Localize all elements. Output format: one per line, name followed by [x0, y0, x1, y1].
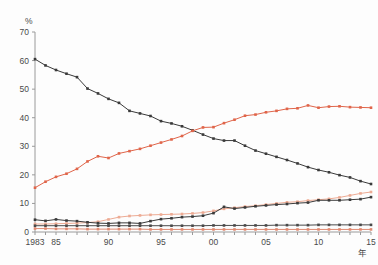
data-point-marker: [170, 138, 173, 141]
data-point-marker: [191, 130, 194, 133]
data-point-marker: [139, 224, 142, 227]
data-point-marker: [202, 228, 205, 231]
data-point-marker: [254, 224, 257, 227]
data-point-marker: [349, 224, 352, 227]
series-series-3-rising-salmon: [34, 191, 373, 226]
data-point-marker: [223, 139, 226, 142]
data-point-marker: [317, 224, 320, 227]
data-point-marker: [202, 126, 205, 129]
data-point-marker: [55, 224, 58, 227]
data-point-marker: [223, 122, 226, 125]
data-point-marker: [296, 224, 299, 227]
data-point-marker: [202, 133, 205, 136]
data-point-marker: [65, 224, 68, 227]
data-point-marker: [170, 122, 173, 125]
data-point-marker: [349, 194, 352, 197]
data-point-marker: [44, 227, 47, 230]
data-point-marker: [244, 206, 247, 209]
data-point-marker: [254, 228, 257, 231]
data-point-marker: [265, 224, 268, 227]
data-point-marker: [34, 224, 37, 227]
data-point-marker: [128, 228, 131, 231]
data-point-marker: [370, 224, 373, 227]
data-point-marker: [139, 112, 142, 115]
data-point-marker: [76, 228, 79, 231]
data-point-marker: [139, 222, 142, 225]
data-point-marker: [212, 126, 215, 129]
data-point-marker: [265, 228, 268, 231]
data-point-marker: [317, 228, 320, 231]
data-point-marker: [370, 183, 373, 186]
data-point-marker: [34, 227, 37, 230]
data-point-marker: [286, 224, 289, 227]
data-point-marker: [76, 220, 79, 223]
data-point-marker: [97, 222, 100, 225]
data-point-marker: [118, 222, 121, 225]
data-point-marker: [338, 105, 341, 108]
data-point-marker: [265, 152, 268, 155]
data-point-marker: [296, 162, 299, 165]
data-point-marker: [76, 224, 79, 227]
data-point-marker: [244, 228, 247, 231]
data-point-marker: [34, 186, 37, 189]
data-point-marker: [212, 228, 215, 231]
data-point-marker: [359, 180, 362, 183]
data-point-marker: [349, 228, 352, 231]
data-point-marker: [97, 224, 100, 227]
data-point-marker: [107, 228, 110, 231]
series-line: [35, 197, 371, 223]
data-point-marker: [118, 228, 121, 231]
data-point-marker: [286, 159, 289, 162]
data-point-marker: [97, 155, 100, 158]
data-point-marker: [286, 228, 289, 231]
data-point-marker: [275, 203, 278, 206]
data-point-marker: [34, 58, 37, 61]
data-point-marker: [307, 104, 310, 107]
data-point-marker: [254, 205, 257, 208]
data-point-marker: [349, 176, 352, 179]
data-point-marker: [118, 152, 121, 155]
data-point-marker: [296, 228, 299, 231]
data-point-marker: [244, 144, 247, 147]
data-point-marker: [223, 228, 226, 231]
data-point-marker: [118, 216, 121, 219]
data-point-marker: [191, 212, 194, 215]
data-point-marker: [65, 222, 68, 225]
data-point-marker: [149, 214, 152, 217]
data-point-marker: [160, 120, 163, 123]
data-point-marker: [181, 224, 184, 227]
data-point-marker: [139, 214, 142, 217]
data-point-marker: [191, 215, 194, 218]
data-point-marker: [233, 228, 236, 231]
data-point-marker: [149, 115, 152, 118]
data-point-marker: [370, 228, 373, 231]
data-point-marker: [76, 168, 79, 171]
data-point-marker: [160, 228, 163, 231]
data-point-marker: [128, 110, 131, 113]
data-point-marker: [233, 118, 236, 121]
data-point-marker: [349, 106, 352, 109]
series-line: [35, 105, 371, 187]
data-point-marker: [275, 224, 278, 227]
data-point-marker: [265, 204, 268, 207]
chart-plot-area: [0, 0, 378, 265]
data-point-marker: [275, 156, 278, 159]
data-point-marker: [307, 228, 310, 231]
data-point-marker: [181, 135, 184, 138]
data-point-marker: [359, 224, 362, 227]
data-point-marker: [149, 228, 152, 231]
data-point-marker: [139, 228, 142, 231]
data-point-marker: [107, 98, 110, 101]
data-point-marker: [317, 199, 320, 202]
data-point-marker: [65, 219, 68, 222]
data-point-marker: [160, 141, 163, 144]
data-point-marker: [338, 228, 341, 231]
data-point-marker: [307, 224, 310, 227]
data-point-marker: [296, 107, 299, 110]
data-point-marker: [44, 180, 47, 183]
data-point-marker: [34, 218, 37, 221]
data-point-marker: [128, 224, 131, 227]
series-series-2-rising-orange: [34, 104, 373, 189]
data-point-marker: [359, 192, 362, 195]
data-point-marker: [370, 106, 373, 109]
